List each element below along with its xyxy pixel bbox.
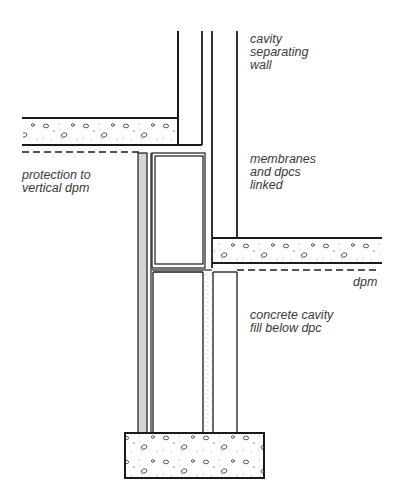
label-cavity-separating-wall: cavity separating wall bbox=[250, 33, 308, 72]
cavity-separating-wall bbox=[202, 31, 237, 268]
vertical-dpm-protection bbox=[138, 153, 151, 433]
wall-junction-diagram bbox=[0, 0, 399, 504]
lower-wall-leaves bbox=[153, 272, 237, 433]
strip-footing bbox=[125, 433, 264, 478]
label-concrete-cavity-fill: concrete cavity fill below dpc bbox=[250, 309, 333, 335]
concrete-cavity-fill bbox=[204, 272, 213, 433]
linked-membranes-block bbox=[151, 153, 212, 270]
label-membranes-linked: membranes and dpcs linked bbox=[250, 153, 316, 192]
label-dpm: dpm bbox=[353, 276, 377, 289]
label-protection-vertical-dpm: protection to vertical dpm bbox=[22, 169, 91, 195]
lower-floor-slab bbox=[212, 238, 382, 263]
upper-floor-slab bbox=[22, 31, 202, 145]
